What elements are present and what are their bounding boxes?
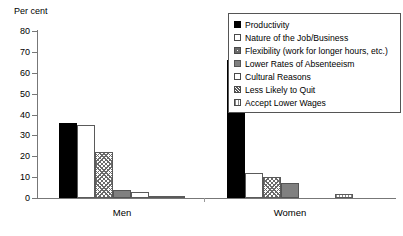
y-tick-label: 10 [4, 173, 30, 182]
legend-item-label: Accept Lower Wages [245, 98, 326, 108]
legend-swatch-icon [234, 99, 241, 106]
legend: ProductivityNature of the Job/BusinessFl… [228, 13, 401, 113]
legend-item: Less Likely to Quit [234, 83, 396, 96]
legend-item: Flexibility (work for longer hours, etc.… [234, 44, 396, 57]
x-axis-group-label-men: Men [113, 207, 131, 218]
legend-item: Nature of the Job/Business [234, 31, 396, 44]
x-axis-group-label-women: Women [274, 207, 307, 218]
bar [263, 177, 281, 198]
legend-item: Productivity [234, 18, 396, 31]
y-tick-label: 30 [4, 131, 30, 140]
legend-swatch-icon [234, 60, 241, 67]
legend-item: Lower Rates of Absenteeism [234, 57, 396, 70]
bar [335, 194, 353, 198]
y-tick-label: 60 [4, 69, 30, 78]
x-axis-line [37, 198, 396, 199]
x-axis-group-divider [204, 198, 205, 202]
bar [167, 196, 185, 198]
bar [245, 173, 263, 198]
y-tick-label-wrap: 40 [0, 115, 30, 116]
y-tick-mark [32, 198, 37, 199]
bar [281, 183, 299, 198]
y-tick-label-wrap: 20 [0, 156, 30, 157]
legend-item: Accept Lower Wages [234, 96, 396, 109]
bar [95, 152, 113, 198]
y-axis-title: Per cent [14, 6, 48, 17]
legend-swatch-icon [234, 21, 241, 28]
legend-item-label: Less Likely to Quit [245, 85, 315, 95]
y-tick-label-wrap: 0 [0, 198, 30, 199]
bar [77, 125, 95, 198]
y-tick-label: 40 [4, 111, 30, 120]
bar [59, 123, 77, 198]
legend-item-label: Nature of the Job/Business [245, 33, 348, 43]
y-tick-label-wrap: 70 [0, 52, 30, 53]
y-tick-label-wrap: 10 [0, 177, 30, 178]
y-tick-label: 20 [4, 152, 30, 161]
y-tick-label: 70 [4, 48, 30, 57]
y-tick-label: 50 [4, 90, 30, 99]
legend-swatch-icon [234, 73, 241, 80]
legend-item-label: Productivity [245, 20, 289, 30]
legend-item-label: Flexibility (work for longer hours, etc.… [245, 46, 388, 56]
legend-item-label: Lower Rates of Absenteeism [245, 59, 354, 69]
y-tick-label-wrap: 60 [0, 73, 30, 74]
legend-items: ProductivityNature of the Job/BusinessFl… [234, 18, 396, 109]
bar [131, 192, 149, 198]
bar [149, 196, 167, 198]
y-tick-label-wrap: 50 [0, 94, 30, 95]
y-tick-label-wrap: 30 [0, 135, 30, 136]
bar [113, 190, 131, 198]
bar-chart: Per cent 80706050403020100 MenWomen Prod… [0, 0, 403, 236]
legend-swatch-icon [234, 86, 241, 93]
legend-item-label: Cultural Reasons [245, 72, 311, 82]
y-tick-label: 80 [4, 27, 30, 36]
legend-item: Cultural Reasons [234, 70, 396, 83]
y-tick-label: 0 [4, 194, 30, 203]
y-tick-label-wrap: 80 [0, 31, 30, 32]
legend-swatch-icon [234, 47, 241, 54]
legend-swatch-icon [234, 34, 241, 41]
